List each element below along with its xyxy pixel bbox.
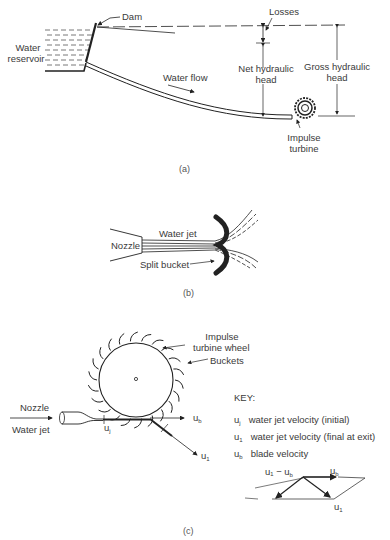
gross-head-label-line1: Gross hydraulic	[303, 61, 371, 72]
buckets-label: Buckets	[210, 355, 244, 366]
bucket	[142, 335, 152, 342]
bucket	[152, 340, 163, 344]
bucket	[92, 398, 104, 402]
water-jet-label: Water jet	[159, 228, 197, 239]
bucket	[119, 334, 124, 345]
nozzle-pipe	[62, 412, 103, 424]
split-bucket	[216, 217, 227, 273]
wheel-label-line1: Impulse	[192, 331, 252, 342]
impulse-turbine-small	[295, 98, 315, 118]
caption-a: (a)	[179, 164, 190, 174]
wheel-hub	[134, 377, 137, 380]
water-flow-label: Water flow	[163, 72, 208, 83]
losses-label: Losses	[269, 6, 299, 17]
turbine-wheel	[99, 343, 173, 417]
vector-u1-label: u1	[334, 501, 343, 516]
nozzle-label: Nozzle	[111, 240, 140, 251]
vector-ub-label: ub	[330, 465, 339, 480]
water-jet-c-label: Water jet	[12, 424, 50, 435]
nozzle-c-label: Nozzle	[20, 402, 49, 413]
gross-head-label-line2: head	[303, 72, 371, 83]
bucket	[88, 385, 98, 391]
uj-label: uj	[104, 422, 111, 437]
water-reservoir-label-line1: Water	[8, 42, 48, 53]
bucket	[169, 401, 172, 413]
net-head-label-line2: head	[238, 74, 294, 85]
relative-velocity-label: u₁ − ub	[265, 466, 293, 481]
bucket	[130, 332, 137, 341]
bucket	[173, 369, 183, 375]
buckets	[88, 332, 183, 428]
bucket	[169, 358, 181, 362]
bucket	[100, 347, 103, 359]
net-head-label-line1: Net hydraulic	[238, 63, 294, 74]
dam-wall	[86, 23, 96, 62]
bucket	[162, 348, 174, 351]
key-title: KEY:	[234, 392, 255, 403]
bucket	[160, 410, 163, 422]
velocity-triangle	[245, 477, 365, 499]
bucket	[89, 371, 97, 380]
dam-label: Dam	[122, 11, 142, 22]
bucket	[93, 358, 99, 369]
key-item-ub: ubblade velocity	[234, 448, 308, 463]
ub-label: ub	[193, 412, 202, 427]
wheel-label-line2: turbine wheel	[193, 342, 250, 353]
turbine-label-line2: turbine	[282, 143, 326, 154]
key-item-u1: u1water jet velocity (final at exit)	[234, 431, 375, 446]
bucket	[99, 410, 111, 413]
split-bucket-label: Split bucket	[140, 259, 189, 270]
key-item-uj: ujwater jet velocity (initial)	[234, 414, 349, 429]
bucket	[175, 380, 183, 389]
caption-c: (c)	[183, 526, 194, 536]
caption-b: (b)	[183, 288, 194, 298]
u1-label: u1	[201, 450, 210, 465]
turbine-label-line1: Impulse	[282, 132, 326, 143]
reservoir-floor	[45, 63, 86, 71]
bucket	[173, 391, 179, 402]
bucket	[109, 339, 112, 351]
water-reservoir-label-line2: reservoir	[2, 53, 50, 64]
